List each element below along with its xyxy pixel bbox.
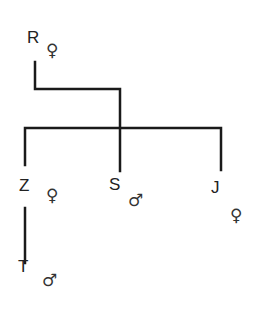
member-r-name: R (27, 29, 39, 46)
tree-connectors (0, 0, 255, 332)
female-icon: ♀ (46, 187, 58, 204)
member-z-name: Z (19, 177, 29, 194)
female-icon: ♀ (230, 207, 242, 224)
member-s-name: S (109, 176, 120, 193)
male-icon: ♂ (128, 192, 143, 209)
connector-siblings (25, 128, 221, 170)
member-j-name: J (211, 179, 220, 196)
male-icon: ♂ (42, 272, 57, 289)
member-t-name: T (18, 258, 28, 275)
connector-r (35, 62, 120, 171)
female-icon: ♀ (46, 42, 58, 59)
